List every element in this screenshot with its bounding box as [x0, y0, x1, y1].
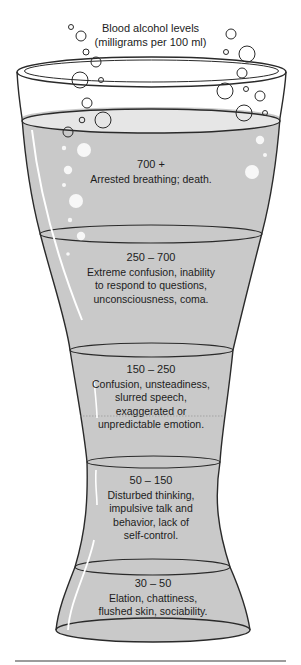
level-150-250: 150 – 250 Confusion, unsteadiness, slurr…: [60, 363, 242, 432]
level-range: 50 – 150: [60, 474, 242, 488]
level-description: Elation, chattiness,: [60, 592, 246, 606]
glass-upper-wall: [17, 72, 22, 118]
level-description: behavior, lack of: [60, 516, 242, 530]
level-range: 700 +: [60, 158, 242, 172]
title-line-2: (milligrams per 100 ml): [0, 35, 301, 49]
level-description: Confusion, unsteadiness,: [60, 378, 242, 392]
level-description: unconsciousness, coma.: [60, 293, 242, 307]
blood-alcohol-glass-diagram: Blood alcohol levels (milligrams per 100…: [0, 0, 301, 665]
level-description: self-control.: [60, 529, 242, 543]
title-line-1: Blood alcohol levels: [0, 21, 301, 35]
level-250-700: 250 – 700 Extreme confusion, inability t…: [60, 251, 242, 306]
level-range: 250 – 700: [60, 251, 242, 265]
level-description: slurred speech,: [60, 391, 242, 405]
level-30-50: 30 – 50 Elation, chattiness, flushed ski…: [60, 577, 246, 619]
glass-rim-inner: [25, 60, 279, 82]
level-700-plus: 700 + Arrested breathing; death.: [60, 158, 242, 186]
level-description: flushed skin, sociability.: [60, 605, 246, 619]
level-50-150: 50 – 150 Disturbed thinking, impulsive t…: [60, 474, 242, 543]
level-description: exaggerated or: [60, 405, 242, 419]
level-description: Disturbed thinking,: [60, 489, 242, 503]
level-description: Extreme confusion, inability: [60, 266, 242, 280]
level-range: 30 – 50: [60, 577, 246, 591]
level-description: unpredictable emotion.: [60, 418, 242, 432]
glass-illustration: [0, 0, 301, 665]
level-range: 150 – 250: [60, 363, 242, 377]
diagram-title: Blood alcohol levels (milligrams per 100…: [0, 21, 301, 49]
level-description: impulsive talk and: [60, 502, 242, 516]
glass-upper-wall-right: [280, 72, 286, 118]
level-description: Arrested breathing; death.: [60, 173, 242, 187]
level-description: to respond to questions,: [60, 279, 242, 293]
